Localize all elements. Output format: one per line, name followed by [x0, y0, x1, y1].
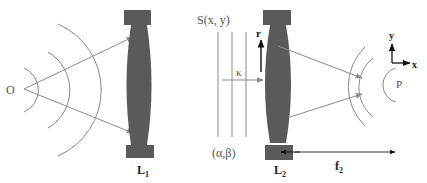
ray-upper-left [24, 37, 133, 89]
lens-l2-top-cap [263, 10, 291, 25]
field-label-s: S(x, y) [197, 13, 230, 27]
radial-label: r [256, 27, 261, 39]
wave-vector-label: κ [236, 66, 242, 78]
focal-length-label: f2 [335, 159, 343, 175]
wavefront-arc-3 [58, 24, 101, 156]
lens-l1-body [127, 25, 152, 145]
right-system: S(x, y) κ (α,β) r L2 P y x f2 [197, 10, 417, 179]
lens-l1-top-cap [124, 10, 151, 25]
focus-arc [383, 68, 395, 102]
optics-diagram: O L1 S(x, y) κ (α,β) r L2 P [0, 0, 427, 183]
axis-x-label: x [412, 59, 417, 70]
lens-l1-bottom-cap [126, 145, 154, 158]
axis-y-label: y [389, 30, 394, 41]
lens-l2-label: L2 [274, 163, 286, 179]
lens-l1-label: L1 [137, 163, 149, 179]
converging-arc-1 [348, 47, 365, 126]
wavefront-arc-2 [48, 52, 70, 128]
lens-l2-body [265, 25, 291, 143]
converging-arc-2 [359, 58, 373, 117]
focus-label-p: P [396, 78, 402, 90]
angles-label: (α,β) [212, 146, 235, 160]
source-label-o: O [6, 83, 15, 97]
ray-lower-left [24, 89, 133, 133]
left-system: O L1 [6, 10, 154, 179]
